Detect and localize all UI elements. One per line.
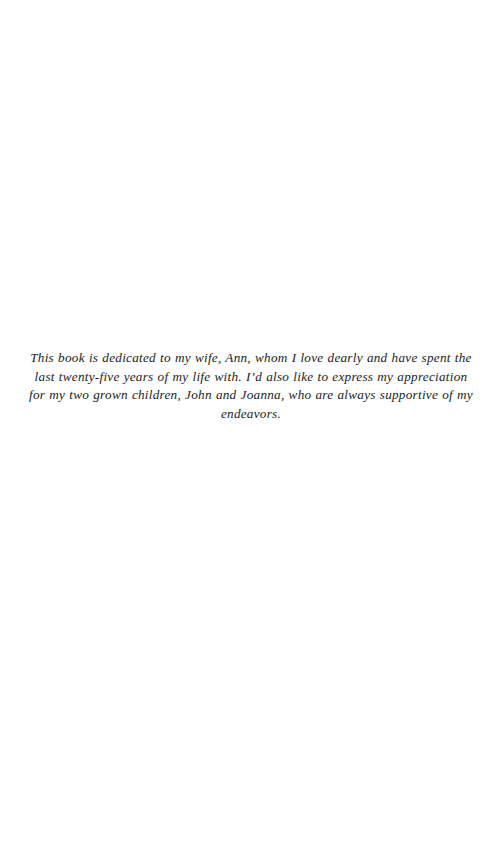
dedication-block: This book is dedicated to my wife, Ann, …: [28, 349, 474, 423]
dedication-page: This book is dedicated to my wife, Ann, …: [0, 0, 502, 868]
dedication-text: This book is dedicated to my wife, Ann, …: [28, 349, 474, 423]
